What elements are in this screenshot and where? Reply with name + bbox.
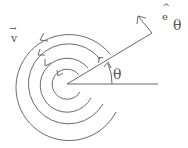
angle-arrow-icon <box>104 62 111 68</box>
arc-arrow-icon-4 <box>40 33 48 41</box>
circle-arc-4 <box>16 35 116 141</box>
circle-arc-2 <box>40 58 91 112</box>
unit-vector-label: e <box>162 12 168 22</box>
unit-vector-subscript: θ <box>173 18 181 32</box>
angle-label: θ <box>113 67 121 81</box>
radius-line <box>67 33 152 84</box>
radius-label: r <box>97 54 102 65</box>
unit-vector-line <box>138 16 152 33</box>
velocity-label: v <box>11 33 17 44</box>
polar-diagram <box>0 0 188 148</box>
